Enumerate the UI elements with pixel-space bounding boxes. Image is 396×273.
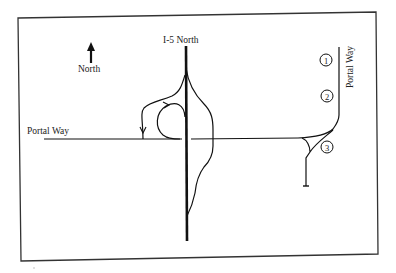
interchange-diagram: North I-5 North Portal Way Portal Way 1 … xyxy=(0,0,396,273)
highway-label: I-5 North xyxy=(163,35,199,45)
marker-2: 2 xyxy=(321,90,333,102)
east-ramp xyxy=(186,68,213,216)
nw-outer-ramp xyxy=(142,75,185,139)
portal-way-west-label: Portal Way xyxy=(27,126,69,136)
north-arrow-icon xyxy=(87,42,95,63)
marker-3: 3 xyxy=(321,141,333,153)
portal-way-east-road-north xyxy=(298,47,339,138)
scan-speck xyxy=(33,267,35,269)
marker-1: 1 xyxy=(320,54,332,66)
svg-text:3: 3 xyxy=(325,143,329,153)
svg-text:1: 1 xyxy=(324,56,328,66)
junction-channel xyxy=(302,130,333,186)
north-label: North xyxy=(78,64,100,74)
portal-way-east-label: Portal Way xyxy=(345,46,355,88)
portal-way-east-road xyxy=(191,138,298,139)
nw-loop-ramp xyxy=(157,104,185,139)
diagram-frame xyxy=(18,12,378,261)
svg-text:2: 2 xyxy=(325,92,329,102)
